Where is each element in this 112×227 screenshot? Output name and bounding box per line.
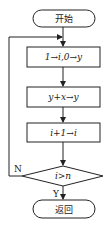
process-label-accumulate: y+x→y — [47, 92, 79, 102]
flowchart: 开始 1→i,0→y y+x→y i+1→i i>n N Y 返回 — [0, 0, 112, 227]
process-label-increment: i+1→i — [50, 128, 77, 138]
process-label-init: 1→i,0→y — [45, 52, 83, 62]
decision-diamond: i>n — [22, 166, 103, 186]
process-box-accumulate: y+x→y — [27, 87, 100, 107]
decision-label: i>n — [55, 171, 71, 181]
process-box-increment: i+1→i — [27, 123, 100, 142]
no-label: N — [14, 164, 22, 174]
process-box-init: 1→i,0→y — [27, 47, 100, 67]
end-label: 返回 — [55, 204, 73, 215]
start-terminal: 开始 — [33, 10, 95, 27]
start-label: 开始 — [55, 13, 73, 24]
end-terminal: 返回 — [33, 200, 95, 218]
yes-label: Y — [52, 189, 60, 199]
